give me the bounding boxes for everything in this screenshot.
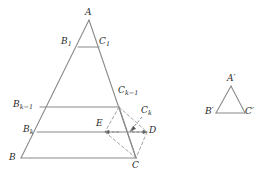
dash-Ck-1-E xyxy=(105,107,119,132)
label-C1: C1 xyxy=(99,37,110,46)
label-C-k: Ck xyxy=(141,106,152,115)
side-Ap-Bp xyxy=(216,86,231,113)
small-similar-triangle xyxy=(216,86,245,113)
label-B-k: Bk xyxy=(23,125,34,134)
label-B-prime: B′ xyxy=(205,107,214,116)
label-E: E xyxy=(96,119,103,128)
dash-D-C xyxy=(136,132,147,158)
label-B1: B1 xyxy=(61,37,72,46)
label-C-prime: C′ xyxy=(245,107,254,116)
arrow-head-to-Ck xyxy=(130,126,135,131)
side-Ap-Cp xyxy=(231,86,245,113)
label-B: B xyxy=(9,153,16,162)
label-C-k-minus-1: Ck−1 xyxy=(118,86,138,95)
label-D: D xyxy=(149,126,156,135)
label-A-prime: A′ xyxy=(227,74,236,83)
label-B-k-minus-1: Bk−1 xyxy=(13,100,33,109)
label-C: C xyxy=(132,161,139,170)
pointer-arrows xyxy=(105,117,146,134)
side-AB xyxy=(21,20,89,158)
label-A: A xyxy=(85,8,92,17)
